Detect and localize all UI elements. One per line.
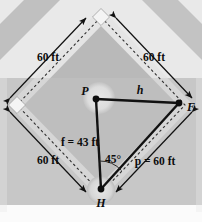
figure-baseball-diamond: P F H h f = 43 ft p = 60 ft 45° 60 ft 60…	[0, 0, 202, 222]
vertex-dot-f[interactable]	[176, 100, 183, 107]
segment-label-h: h	[137, 83, 144, 97]
vertex-label-p: P	[81, 84, 89, 98]
angle-label-45: 45°	[105, 153, 122, 165]
vertex-label-f: F	[186, 100, 195, 114]
segment-label-p: p = 60 ft	[135, 155, 176, 168]
vertex-dot-p[interactable]	[93, 96, 100, 103]
dimension-label-home-to-third: 60 ft	[37, 154, 59, 166]
dimension-label-third-to-second: 60 ft	[37, 51, 59, 63]
vertex-dot-h[interactable]	[98, 186, 105, 193]
segment-label-f: f = 43 ft	[61, 136, 99, 148]
dimension-label-second-to-first: 60 ft	[143, 51, 165, 63]
vertex-label-h: H	[95, 196, 106, 210]
